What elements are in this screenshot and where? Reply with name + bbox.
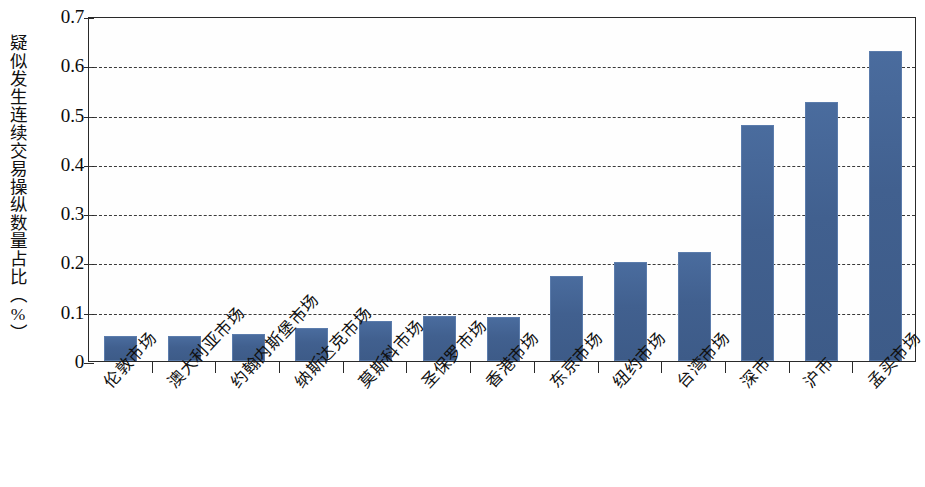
x-axis-tick-mark — [279, 362, 280, 373]
x-axis-tick-mark — [343, 362, 344, 373]
x-axis-tick-mark — [215, 362, 216, 373]
y-axis-tick-label: 0.5 — [40, 105, 84, 127]
x-axis-tick-mark — [852, 362, 853, 373]
y-axis-tick-label: 0.2 — [40, 252, 84, 274]
plot-area — [88, 17, 916, 362]
x-axis-tick-mark — [725, 362, 726, 373]
x-axis-tick-mark — [598, 362, 599, 373]
bar[interactable] — [805, 102, 838, 361]
y-axis-tick-labels: 0.70.60.50.40.30.20.10 — [34, 0, 84, 487]
x-axis-tick-mark — [789, 362, 790, 373]
x-axis-tick-mark — [470, 362, 471, 373]
bar[interactable] — [869, 51, 902, 362]
y-axis-title: 疑似发生连续交易操纵数量占比（%） — [2, 8, 32, 368]
bars-group — [89, 18, 915, 361]
x-axis-tick-mark — [152, 362, 153, 373]
bar[interactable] — [741, 125, 774, 361]
y-axis-tick-label: 0 — [40, 351, 84, 373]
y-axis-tick-label: 0.6 — [40, 55, 84, 77]
y-axis-tick-label: 0.7 — [40, 6, 84, 28]
y-axis-tick-label: 0.1 — [40, 302, 84, 324]
x-axis-tick-mark — [406, 362, 407, 373]
x-axis-tick-mark — [534, 362, 535, 373]
y-axis-tick-label: 0.3 — [40, 203, 84, 225]
x-axis-tick-mark — [661, 362, 662, 373]
y-axis-tick-label: 0.4 — [40, 154, 84, 176]
